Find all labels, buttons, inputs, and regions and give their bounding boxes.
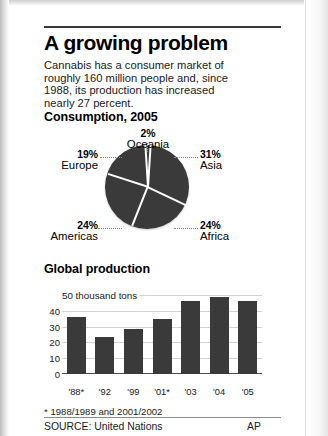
x-axis-tick-4: '03	[175, 387, 206, 397]
page-title: A growing problem	[44, 31, 284, 55]
footer-rule	[44, 417, 281, 418]
bar-88	[67, 317, 86, 374]
x-axis-tick-2: '99	[118, 387, 149, 397]
pie-name-asia: Asia	[200, 159, 222, 171]
header-rule	[44, 26, 281, 28]
agency-credit: AP	[247, 421, 261, 432]
section-heading-consumption: Consumption, 2005	[44, 110, 158, 124]
x-axis-tick-3: '01*	[147, 387, 178, 397]
pie-name-europe: Europe	[61, 159, 98, 171]
gridline-40	[62, 311, 262, 312]
pie-separator-americas	[132, 187, 149, 227]
bar-03	[181, 301, 200, 374]
bar-04	[210, 297, 229, 374]
y-axis-tick-0: 0	[55, 369, 60, 380]
pie-pct-europe: 19%	[77, 149, 98, 160]
y-axis-tick-30: 30	[49, 321, 60, 332]
bar-chart: 403020100'88*'92'99'01*'03'04'05 50 thou…	[44, 281, 294, 391]
pie-label-asia: 31% Asia	[200, 149, 222, 172]
bar-05	[238, 301, 257, 374]
leader-line-africa	[174, 228, 198, 230]
pie-label-africa: 24% Africa	[200, 220, 229, 243]
x-axis-tick-0: '88*	[61, 387, 92, 397]
x-axis-tick-5: '04	[204, 387, 235, 397]
bar-plot-area: 403020100'88*'92'99'01*'03'04'05	[62, 292, 262, 374]
pie-pct-americas: 24%	[77, 220, 98, 231]
pie-name-africa: Africa	[200, 230, 229, 242]
bar-01	[153, 319, 172, 374]
y-axis-tick-20: 20	[49, 337, 60, 348]
pie-name-oceania: Oceania	[127, 138, 169, 150]
pie-label-americas: 24% Americas	[38, 220, 98, 243]
page-right-shadow	[304, 0, 328, 436]
pie-label-europe: 19% Europe	[42, 149, 98, 172]
infographic-card: A growing problem Cannabis has a consume…	[0, 0, 328, 436]
chart-footnote: * 1988/1989 and 2001/2002	[44, 406, 162, 417]
standfirst-text: Cannabis has a consumer market of roughl…	[44, 59, 244, 109]
x-axis-tick-6: '05	[232, 387, 263, 397]
pie-name-americas: Americas	[51, 230, 98, 242]
pie-label-oceania: 2% Oceania	[118, 128, 178, 151]
source-credit: SOURCE: United Nations	[44, 421, 162, 432]
x-axis-tick-1: '92	[89, 387, 120, 397]
content-column: A growing problem Cannabis has a consume…	[44, 0, 294, 436]
page-left-shadow	[0, 0, 9, 436]
pie-separator-europe	[108, 173, 148, 187]
leader-line-asia	[174, 157, 198, 159]
bar-92	[95, 337, 114, 374]
section-heading-production: Global production	[44, 262, 150, 276]
pie-pct-africa: 24%	[200, 220, 221, 231]
bar-99	[124, 329, 143, 374]
page-right-rule	[305, 0, 306, 436]
pie-separator-africa	[147, 186, 186, 205]
leader-line-europe	[100, 157, 122, 159]
y-axis-tick-40: 40	[49, 305, 60, 316]
pie-pct-oceania: 2%	[140, 128, 155, 139]
y-axis-tick-50: 50 thousand tons	[62, 290, 140, 301]
pie-pct-asia: 31%	[200, 149, 221, 160]
y-axis-tick-10: 10	[49, 353, 60, 364]
pie-chart: 2% Oceania 31% Asia 19% Europe 24% Afric…	[44, 128, 294, 256]
leader-line-americas	[98, 228, 122, 230]
